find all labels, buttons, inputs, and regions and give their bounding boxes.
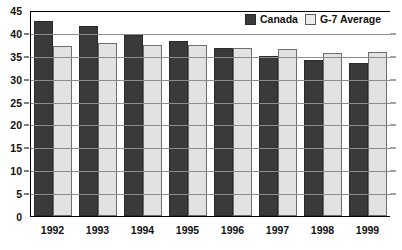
y-axis-label-5: 5 [0,188,22,200]
bar-group-1993 [76,11,121,216]
y-axis-tick-right-10 [390,171,396,172]
x-axis-label-1992: 1992 [30,224,75,244]
y-axis-dash-20 [24,125,29,126]
y-axis-tick-right-40 [390,33,396,34]
gridline-25 [31,103,390,104]
y-axis: 051015202530354045 [0,0,30,250]
bar-canada-1998 [304,60,323,216]
bar-canada-1995 [169,41,188,216]
x-axis-label-1997: 1997 [255,224,300,244]
bar-g-7-average-1992 [53,46,72,216]
y-axis-dash-25 [24,102,29,103]
bar-g-7-average-1993 [98,43,117,216]
bar-group-1999 [345,11,390,216]
gridline-15 [31,148,390,149]
y-axis-label-25: 25 [0,97,22,109]
x-axis-labels: 19921993199419951996199719981999 [30,224,390,244]
y-axis-label-20: 20 [0,119,22,131]
bar-chart: 051015202530354045 199219931994199519961… [0,0,402,250]
legend-label: G-7 Average [320,13,381,25]
bar-group-1996 [211,11,256,216]
y-axis-tick-right-15 [390,148,396,149]
gridline-30 [31,80,390,81]
gridline-5 [31,194,390,195]
x-axis-label-1994: 1994 [120,224,165,244]
gridline-35 [31,57,390,58]
y-axis-label-35: 35 [0,51,22,63]
x-axis-label-1999: 1999 [345,224,390,244]
bar-group-1998 [300,11,345,216]
y-axis-label-45: 45 [0,5,22,17]
x-axis-label-1996: 1996 [210,224,255,244]
bar-g-7-average-1996 [233,48,252,216]
bar-canada-1992 [34,21,53,216]
bar-g-7-average-1997 [278,49,297,216]
y-axis-tick-right-20 [390,125,396,126]
bar-g-7-average-1999 [368,52,387,216]
bar-group-1992 [31,11,76,216]
y-axis-tick-right-35 [390,56,396,57]
legend-swatch-icon-g7 [305,14,316,25]
legend-item-g-7-average: G-7 Average [305,13,381,25]
y-axis-label-30: 30 [0,74,22,86]
x-axis-label-1993: 1993 [75,224,120,244]
legend-swatch-icon-canada [245,14,256,25]
x-axis-label-1995: 1995 [165,224,210,244]
chart-legend: CanadaG-7 Average [243,12,383,26]
bar-canada-1999 [349,63,368,216]
gridline-10 [31,171,390,172]
y-axis-dash-30 [24,79,29,80]
y-axis-dash-5 [24,194,29,195]
bar-group-1994 [121,11,166,216]
bar-canada-1993 [79,26,98,216]
y-axis-tick-right-5 [390,194,396,195]
y-axis-label-10: 10 [0,165,22,177]
gridline-20 [31,125,390,126]
x-axis-label-1998: 1998 [300,224,345,244]
y-axis-dash-35 [24,56,29,57]
bar-group-1995 [166,11,211,216]
bar-group-1997 [255,11,300,216]
plot-area [30,11,390,217]
y-axis-dash-40 [24,33,29,34]
gridline-40 [31,34,390,35]
bar-g-7-average-1995 [188,45,207,216]
y-axis-tick-right-30 [390,79,396,80]
legend-label: Canada [260,13,298,25]
legend-item-canada: Canada [245,13,298,25]
y-axis-label-15: 15 [0,142,22,154]
y-axis-dash-10 [24,171,29,172]
bar-g-7-average-1994 [143,45,162,216]
bar-groups [31,11,390,216]
y-axis-label-40: 40 [0,28,22,40]
bar-canada-1996 [214,48,233,216]
y-axis-tick-right-25 [390,102,396,103]
y-axis-dash-15 [24,148,29,149]
y-axis-label-0: 0 [0,211,22,223]
bar-g-7-average-1998 [323,53,342,216]
